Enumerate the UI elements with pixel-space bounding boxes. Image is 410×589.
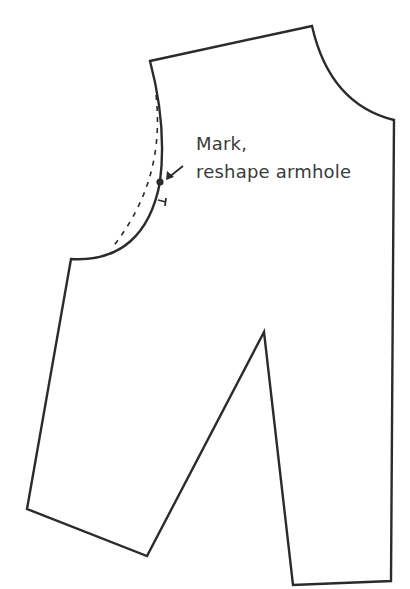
annotation-line-2: reshape armhole	[196, 161, 351, 183]
notch-mark-cap	[165, 198, 166, 206]
annotation-line-1: Mark,	[196, 133, 351, 155]
original-armhole-dashed-line	[112, 95, 157, 248]
pattern-outline	[27, 26, 394, 585]
mark-dot	[156, 178, 163, 185]
arrow-head-icon	[166, 171, 174, 180]
annotation-label: Mark, reshape armhole	[196, 133, 351, 183]
pattern-diagram	[0, 0, 410, 589]
